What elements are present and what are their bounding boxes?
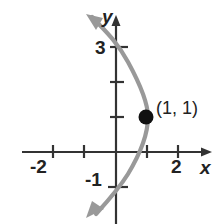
tick-label-y-3: 3 bbox=[95, 38, 106, 57]
tick-label-x-neg2: -2 bbox=[30, 157, 47, 176]
point-coordinate-label: (1, 1) bbox=[156, 99, 198, 117]
graph-figure: 3 -1 -2 2 y x (1, 1) bbox=[0, 0, 222, 224]
y-axis-label: y bbox=[102, 7, 113, 26]
tick-label-x-2: 2 bbox=[171, 157, 182, 176]
plotted-point-marker bbox=[139, 110, 154, 125]
x-axis-arrow-icon bbox=[201, 148, 212, 157]
tick-label-y-neg1: -1 bbox=[85, 170, 102, 189]
x-axis-label: x bbox=[200, 158, 211, 177]
